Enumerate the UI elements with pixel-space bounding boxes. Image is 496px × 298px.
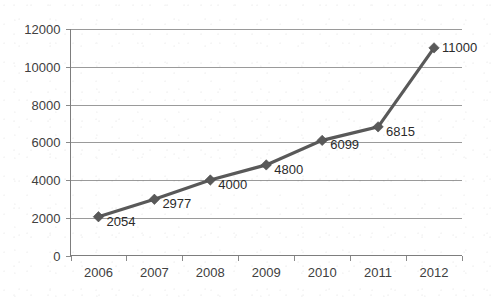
x-tick-label: 2008 <box>196 265 225 280</box>
chart-background <box>0 0 496 298</box>
y-tick-label: 2000 <box>32 211 61 226</box>
data-point-label: 11000 <box>442 40 477 55</box>
y-tick-label: 6000 <box>32 135 61 150</box>
x-tick-label: 2010 <box>308 265 337 280</box>
y-tick-label: 8000 <box>32 98 61 113</box>
x-tick-label: 2006 <box>84 265 113 280</box>
x-tick-label: 2012 <box>420 265 449 280</box>
y-tick-label: 0 <box>53 249 60 264</box>
y-tick-label: 10000 <box>24 60 60 75</box>
data-point-label: 6099 <box>330 137 359 152</box>
x-tick-label: 2009 <box>252 265 281 280</box>
data-point-label: 6815 <box>386 124 415 139</box>
data-point-label: 2977 <box>162 196 191 211</box>
data-point-label: 4800 <box>274 162 303 177</box>
x-tick-label: 2011 <box>364 265 392 280</box>
chart-canvas: 020004000600080001000012000 200620072008… <box>0 0 496 298</box>
data-point-label: 4000 <box>218 177 247 192</box>
y-tick-label: 12000 <box>24 22 60 37</box>
line-chart: 020004000600080001000012000 200620072008… <box>0 0 496 298</box>
x-tick-label: 2007 <box>140 265 169 280</box>
y-tick-label: 4000 <box>32 173 61 188</box>
data-point-label: 2054 <box>106 214 135 229</box>
